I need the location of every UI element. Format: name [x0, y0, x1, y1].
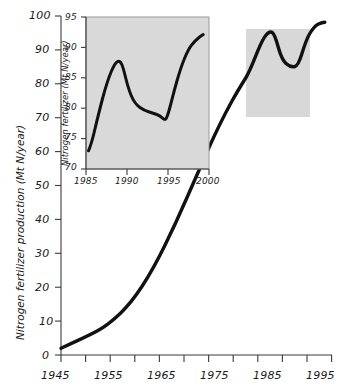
main-x-tickmarks — [61, 355, 332, 362]
chart-figure: 100 90 80 70 60 50 40 30 20 10 0 1945 19… — [0, 0, 338, 392]
inset-x-tickmarks — [86, 169, 209, 175]
main-y-tickmarks — [55, 16, 61, 355]
chart-canvas — [0, 0, 338, 392]
inset-y-tickmarks — [81, 17, 86, 169]
